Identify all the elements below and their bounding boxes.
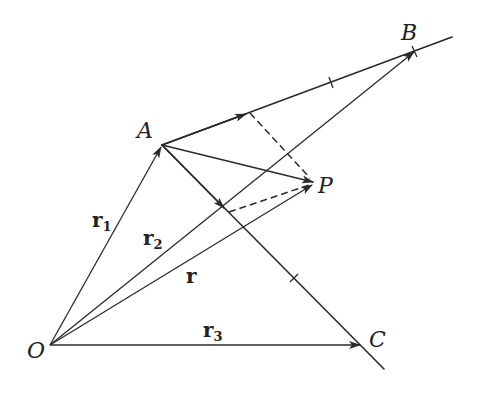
label-B: B <box>400 20 417 45</box>
vector-r2 <box>50 52 414 345</box>
vector-r <box>50 185 312 345</box>
vector-diagram: A B C P O r1 r2 r r3 <box>0 0 481 400</box>
unit-arrow-AC <box>162 145 224 208</box>
label-r2: r2 <box>143 226 163 252</box>
label-r3: r3 <box>203 318 223 344</box>
label-A: A <box>135 118 153 143</box>
label-C: C <box>369 327 386 352</box>
label-r: r <box>186 264 197 288</box>
unit-arrow-AB <box>162 114 246 145</box>
vector-AP <box>162 145 313 182</box>
label-P: P <box>317 173 334 198</box>
label-O: O <box>27 338 45 363</box>
label-r1: r1 <box>92 208 112 234</box>
dashed-projection-AC <box>229 184 312 212</box>
diagram-svg: A B C P O r1 r2 r r3 <box>0 0 481 400</box>
